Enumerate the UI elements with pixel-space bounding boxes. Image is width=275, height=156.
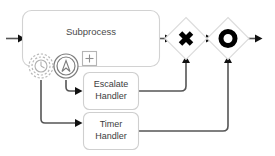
subprocess-label: Subprocess — [66, 26, 116, 37]
subprocess-plus-marker-icon — [83, 52, 97, 66]
escalation-boundary-event[interactable] — [54, 54, 78, 78]
timer-boundary-event[interactable] — [29, 54, 53, 78]
escalate-handler-label-line1: Escalate — [94, 79, 129, 89]
bpmn-diagram: Subprocess — [0, 0, 275, 156]
flow-escalation-event-to-escalate-handler — [66, 80, 83, 95]
inclusive-gateway[interactable] — [207, 18, 249, 60]
bpmn-diagram-canvas: Subprocess — [0, 0, 275, 156]
escalate-handler-label-line2: Handler — [95, 91, 127, 101]
exclusive-gateway[interactable] — [165, 18, 207, 60]
escalate-handler-task[interactable]: Escalate Handler — [84, 73, 139, 110]
timer-handler-task[interactable]: Timer Handler — [84, 113, 139, 150]
timer-handler-label-line2: Handler — [95, 131, 127, 141]
inclusive-gateway-diamond[interactable] — [207, 18, 249, 60]
flow-timer-event-to-timer-handler — [41, 80, 83, 127]
timer-handler-label-line1: Timer — [100, 119, 123, 129]
